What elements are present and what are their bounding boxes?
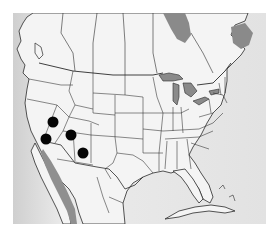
occurrence-marker [41, 134, 52, 145]
occurrence-marker [48, 117, 59, 128]
occurrence-marker [66, 130, 77, 141]
lake-michigan [173, 83, 179, 105]
occurrence-marker [78, 148, 89, 159]
